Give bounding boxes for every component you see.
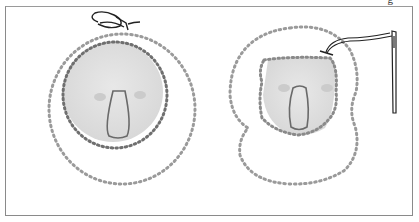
cheek-left bbox=[278, 84, 290, 92]
cheek-right bbox=[321, 84, 333, 92]
cheek-left bbox=[94, 93, 106, 101]
thread-knot-icon bbox=[92, 12, 140, 30]
cheek-right bbox=[134, 91, 146, 99]
sewing-illustration bbox=[0, 0, 419, 222]
left-panel bbox=[49, 12, 195, 184]
right-panel bbox=[230, 27, 396, 184]
